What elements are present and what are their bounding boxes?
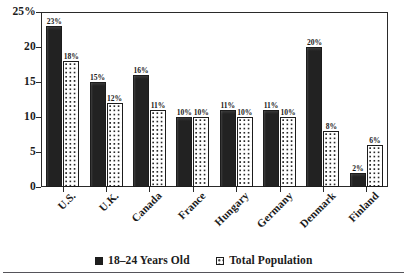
bar-wrapper: 10% — [237, 12, 253, 187]
bar-value-label: 6% — [369, 137, 380, 145]
bar-wrapper: 11% — [150, 12, 166, 187]
bar-value-label: 23% — [47, 18, 62, 26]
bar[interactable] — [350, 173, 366, 187]
bar[interactable] — [263, 110, 279, 187]
x-axis-category-label: Denmark — [298, 190, 338, 230]
bar-wrapper: 8% — [323, 12, 339, 187]
bar[interactable] — [133, 75, 149, 187]
bar-group: 23%18% — [41, 12, 84, 187]
bar-value-label: 11% — [264, 102, 278, 110]
filled-square-icon — [95, 257, 104, 266]
bar-wrapper: 15% — [90, 12, 106, 187]
bar-value-label: 11% — [220, 102, 234, 110]
bar-value-label: 16% — [133, 67, 148, 75]
plot-area: 23%18%15%12%16%11%10%10%11%10%11%10%20%8… — [41, 12, 388, 187]
bar[interactable] — [90, 82, 106, 187]
bar-value-label: 10% — [177, 109, 192, 117]
bottom-divider — [3, 272, 404, 273]
bar[interactable] — [220, 110, 236, 187]
bar-group: 11%10% — [258, 12, 301, 187]
legend-label: Total Population — [229, 255, 312, 267]
bar-value-label: 11% — [151, 102, 165, 110]
bar-group: 2%6% — [345, 12, 388, 187]
bar[interactable] — [107, 103, 123, 187]
bar-wrapper: 18% — [63, 12, 79, 187]
bar-wrapper: 16% — [133, 12, 149, 187]
bar-value-label: 12% — [107, 95, 122, 103]
x-axis-labels: U.S.U.K.CanadaFranceHungaryGermanyDenmar… — [41, 190, 388, 245]
bar-wrapper: 11% — [263, 12, 279, 187]
bar[interactable] — [176, 117, 192, 187]
bar-group: 20%8% — [301, 12, 344, 187]
bar[interactable] — [323, 131, 339, 187]
bar-value-label: 10% — [237, 109, 252, 117]
legend-item[interactable]: 18–24 Years Old — [95, 255, 190, 267]
bar-wrapper: 2% — [350, 12, 366, 187]
bar-wrapper: 10% — [176, 12, 192, 187]
y-axis-tick-label: 20 — [0, 41, 36, 53]
bar-value-label: 10% — [281, 109, 296, 117]
chart-legend: 18–24 Years OldTotal Population — [0, 252, 407, 270]
bar[interactable] — [367, 145, 383, 187]
y-axis-tick-label: 10 — [0, 111, 36, 123]
bar-value-label: 18% — [64, 53, 79, 61]
y-axis: 0510152025% — [0, 12, 36, 187]
x-axis-category-label: France — [176, 190, 208, 222]
bar-wrapper: 23% — [46, 12, 62, 187]
bar[interactable] — [280, 117, 296, 187]
bar-value-label: 10% — [194, 109, 209, 117]
bar-chart: 0510152025% 23%18%15%12%16%11%10%10%11%1… — [0, 0, 407, 278]
x-axis-category-label: Hungary — [213, 190, 251, 228]
x-axis-category-label: Germany — [255, 190, 295, 230]
y-axis-tick-label: 25% — [0, 6, 36, 18]
bar-group: 10%10% — [171, 12, 214, 187]
bar-wrapper: 10% — [280, 12, 296, 187]
bar[interactable] — [306, 47, 322, 187]
bar-value-label: 20% — [307, 39, 322, 47]
bar-value-label: 2% — [352, 165, 363, 173]
y-axis-tick-label: 5 — [0, 146, 36, 158]
dotted-square-icon — [216, 257, 225, 266]
bar[interactable] — [63, 61, 79, 187]
bar-group: 11%10% — [215, 12, 258, 187]
bar-value-label: 8% — [326, 123, 337, 131]
y-axis-tick-label: 15 — [0, 76, 36, 88]
bar[interactable] — [46, 26, 62, 187]
y-axis-tick-label: 0 — [0, 181, 36, 193]
bar-wrapper: 10% — [193, 12, 209, 187]
bar-value-label: 15% — [90, 74, 105, 82]
x-axis-category-label: Canada — [130, 190, 164, 224]
bar-wrapper: 6% — [367, 12, 383, 187]
bar[interactable] — [237, 117, 253, 187]
legend-label: 18–24 Years Old — [108, 255, 190, 267]
x-axis-category-label: U.S. — [56, 190, 78, 212]
bar-wrapper: 12% — [107, 12, 123, 187]
bar-wrapper: 11% — [220, 12, 236, 187]
bar-group: 15%12% — [84, 12, 127, 187]
x-axis-category-label: Finland — [347, 190, 381, 224]
x-axis-category-label: U.K. — [97, 190, 121, 214]
bar[interactable] — [193, 117, 209, 187]
bar-wrapper: 20% — [306, 12, 322, 187]
legend-item[interactable]: Total Population — [216, 255, 313, 267]
bar[interactable] — [150, 110, 166, 187]
bar-group: 16%11% — [128, 12, 171, 187]
bar-groups: 23%18%15%12%16%11%10%10%11%10%11%10%20%8… — [41, 12, 388, 187]
